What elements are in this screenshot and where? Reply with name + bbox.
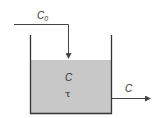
- tank-concentration-label: C: [65, 72, 73, 83]
- inlet-arrow: [14, 25, 69, 59]
- inlet-label: C0: [37, 10, 48, 22]
- outlet-label: C: [125, 83, 133, 94]
- cstr-diagram: C0 C τ C: [0, 0, 159, 118]
- tank-liquid: [31, 60, 111, 113]
- residence-time-label: τ: [65, 88, 71, 99]
- diagram-canvas: C0 C τ C: [0, 0, 159, 118]
